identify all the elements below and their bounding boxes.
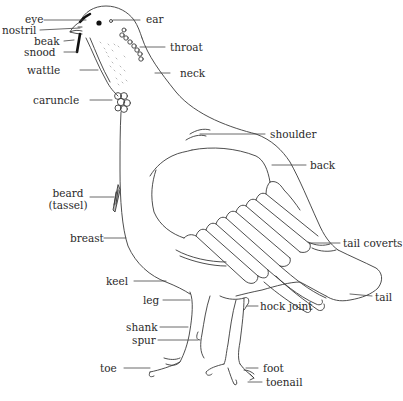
label-neck: neck: [180, 67, 205, 79]
label-throat: throat: [170, 41, 203, 53]
turkey-body-outline: [120, 38, 382, 301]
beard-tassel: [113, 185, 120, 212]
label-ear: ear: [146, 13, 164, 25]
label-leg: leg: [143, 294, 159, 306]
label-foot: foot: [263, 362, 284, 374]
wattle-stipple: [100, 42, 127, 85]
caruncle-bumps: [115, 28, 144, 112]
label-beard-line2: (tassel): [48, 199, 88, 211]
turkey-wing: [150, 129, 336, 312]
label-beard-line1: beard: [48, 187, 88, 199]
label-toe: toe: [100, 362, 117, 374]
label-breast: breast: [70, 232, 104, 244]
label-back: back: [310, 159, 335, 171]
label-snood: snood: [24, 46, 56, 58]
turkey-legs: [149, 292, 254, 385]
label-shank: shank: [126, 321, 158, 333]
label-keel: keel: [106, 275, 128, 287]
label-hock-joint: hock joint: [260, 300, 313, 312]
leader-lines: [40, 20, 372, 382]
label-beard: beard (tassel): [48, 187, 88, 211]
label-tail: tail: [375, 291, 392, 303]
label-toenail: toenail: [266, 376, 303, 388]
label-shoulder: shoulder: [270, 128, 317, 140]
turkey-head: [70, 6, 142, 96]
label-tail-coverts: tail coverts: [343, 237, 403, 249]
label-wattle: wattle: [27, 64, 60, 76]
label-spur: spur: [132, 334, 156, 346]
label-nostril: nostril: [2, 24, 36, 36]
label-caruncle: caruncle: [33, 94, 79, 106]
